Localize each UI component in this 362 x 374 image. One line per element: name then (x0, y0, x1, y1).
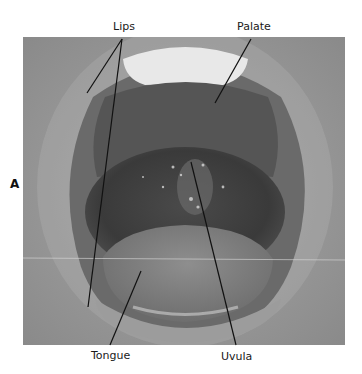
mouth-illustration (23, 37, 345, 345)
oral-cavity-photo (23, 37, 345, 345)
label-palate: Palate (237, 20, 271, 33)
panel-letter: A (10, 177, 19, 191)
label-tongue: Tongue (91, 349, 130, 362)
label-uvula: Uvula (221, 350, 252, 363)
label-lips: Lips (113, 20, 135, 33)
